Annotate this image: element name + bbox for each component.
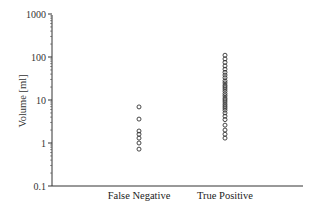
y-axis-ticks: 0.11101001000 [26,9,52,192]
data-points [137,53,227,151]
category-label-true-positive: True Positive [197,190,253,201]
y-tick-label: 10 [36,95,46,106]
data-point [137,117,141,121]
data-point [223,123,227,127]
y-axis-title: Volume [ml] [17,74,28,127]
scatter-chart: 0.11101001000 Volume [ml] False Negative… [0,0,316,207]
data-point [223,132,227,136]
y-tick-label: 1 [41,138,46,149]
data-point [223,136,227,140]
data-point [137,147,141,151]
data-point [137,105,141,109]
data-point [137,136,141,140]
y-tick-label: 0.1 [34,181,47,192]
y-tick-label: 1000 [26,9,46,20]
category-label-false-negative: False Negative [108,190,171,201]
data-point [223,128,227,132]
data-point [137,141,141,145]
y-tick-label: 100 [31,52,46,63]
